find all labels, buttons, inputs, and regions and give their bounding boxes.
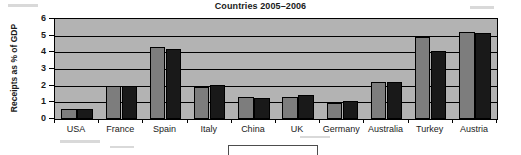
y-tick-mark — [49, 85, 54, 86]
bar — [254, 98, 270, 119]
bar-series-container — [55, 19, 497, 119]
bar — [210, 85, 226, 119]
x-tick-mark — [452, 119, 453, 123]
bar — [327, 103, 343, 119]
scan-artifact — [470, 6, 494, 9]
bar-group — [364, 19, 408, 119]
bar — [61, 109, 77, 119]
chart-figure: Countries 2005–2006 Receipts as % of GDP… — [0, 0, 521, 155]
y-tick-mark — [49, 35, 54, 36]
x-tick-mark — [142, 119, 143, 123]
x-tick-label: UK — [275, 124, 319, 134]
bar — [106, 86, 122, 119]
bar — [77, 109, 93, 119]
bar — [282, 97, 298, 120]
bar-group — [276, 19, 320, 119]
bar-group — [320, 19, 364, 119]
y-tick-mark — [49, 51, 54, 52]
y-tick-label: 4 — [30, 46, 46, 56]
scan-artifact — [110, 146, 134, 148]
y-tick-mark — [49, 18, 54, 19]
bar — [343, 101, 359, 119]
bar — [475, 33, 491, 119]
x-tick-mark — [54, 119, 55, 123]
bar — [166, 49, 182, 119]
x-tick-mark — [496, 119, 497, 123]
x-tick-label: Austria — [452, 124, 496, 134]
legend-box — [228, 145, 318, 155]
x-tick-mark — [187, 119, 188, 123]
x-tick-mark — [98, 119, 99, 123]
bar — [122, 86, 138, 119]
bar-group — [188, 19, 232, 119]
bar-group — [232, 19, 276, 119]
bar-group — [453, 19, 497, 119]
scan-artifact — [8, 4, 38, 7]
y-tick-label: 0 — [30, 113, 46, 123]
y-tick-label: 5 — [30, 30, 46, 40]
y-tick-mark — [49, 118, 54, 119]
bar — [431, 51, 447, 119]
bar — [194, 87, 210, 120]
y-axis-label: Receipts as % of GDP — [9, 13, 19, 123]
bar-group — [99, 19, 143, 119]
y-tick-label: 1 — [30, 96, 46, 106]
bar-group — [409, 19, 453, 119]
x-tick-label: Italy — [187, 124, 231, 134]
x-tick-mark — [319, 119, 320, 123]
bar — [298, 95, 314, 119]
x-tick-label: China — [231, 124, 275, 134]
chart-title: Countries 2005–2006 — [0, 1, 521, 11]
x-tick-label: USA — [54, 124, 98, 134]
scan-artifact — [60, 140, 100, 143]
x-axis-tick-labels: USAFranceSpainItalyChinaUKGermanyAustral… — [54, 124, 496, 138]
y-tick-label: 6 — [30, 13, 46, 23]
y-tick-mark — [49, 68, 54, 69]
x-tick-label: Australia — [363, 124, 407, 134]
bar — [459, 32, 475, 119]
bar — [371, 82, 387, 119]
x-tick-mark — [231, 119, 232, 123]
y-tick-mark — [49, 101, 54, 102]
x-tick-label: Spain — [142, 124, 186, 134]
bar — [387, 82, 403, 119]
x-tick-label: Turkey — [408, 124, 452, 134]
bar — [238, 97, 254, 119]
x-tick-mark — [363, 119, 364, 123]
bar-group — [55, 19, 99, 119]
bar — [415, 37, 431, 119]
x-tick-label: Germany — [319, 124, 363, 134]
plot-area — [54, 18, 498, 120]
x-tick-mark — [275, 119, 276, 123]
x-tick-mark — [408, 119, 409, 123]
scan-artifact — [300, 136, 330, 138]
bar-group — [143, 19, 187, 119]
x-tick-label: France — [98, 124, 142, 134]
y-tick-label: 2 — [30, 80, 46, 90]
y-axis-tick-labels: 0123456 — [30, 13, 46, 123]
bar — [150, 47, 166, 120]
y-tick-label: 3 — [30, 63, 46, 73]
